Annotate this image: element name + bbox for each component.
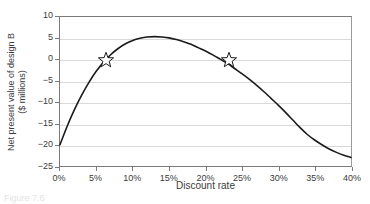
y-axis-tick-label: 5	[27, 32, 53, 42]
y-axis-tick-label: −10	[27, 96, 53, 106]
figure-caption: Figure 7.6	[4, 193, 45, 203]
y-axis-tick-label: 10	[27, 10, 53, 20]
star-icon	[221, 52, 238, 69]
x-axis-title: Discount rate	[59, 180, 352, 191]
x-axis-tick-mark	[279, 167, 280, 171]
x-axis-tick-mark	[352, 167, 353, 171]
plot-area	[59, 16, 352, 167]
x-axis-tick-mark	[169, 167, 170, 171]
x-axis-tick-mark	[132, 167, 133, 171]
y-axis-title-line2: ($ millions)	[17, 33, 28, 151]
x-axis-tick-mark	[315, 167, 316, 171]
x-axis-tick-mark	[242, 167, 243, 171]
y-axis-tick-label: −20	[27, 139, 53, 149]
x-axis-tick-mark	[206, 167, 207, 171]
y-axis-tick-label: 0	[27, 53, 53, 63]
irr-upper-crossing	[221, 52, 238, 69]
y-axis-tick-label: −25	[27, 161, 53, 171]
x-axis-tick-mark	[59, 167, 60, 171]
y-axis-tick-label: −15	[27, 118, 53, 128]
y-axis-tick-label: −5	[27, 75, 53, 85]
star-icon	[98, 52, 115, 69]
y-axis-title-line1: Net present value of design B	[6, 33, 17, 151]
x-axis-tick-mark	[96, 167, 97, 171]
npv-discount-rate-chart: Net present value of design B ($ million…	[0, 0, 370, 204]
series-curve	[60, 17, 351, 166]
irr-lower-crossing	[98, 52, 115, 69]
